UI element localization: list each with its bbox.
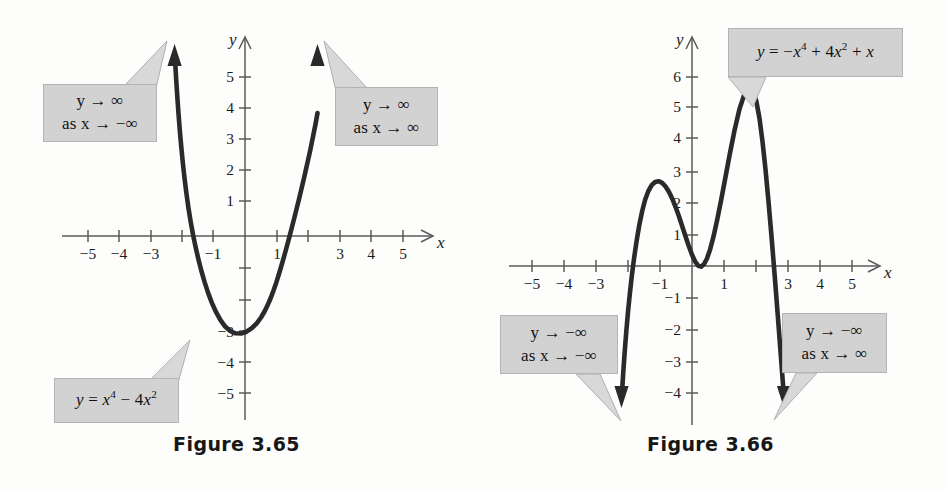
exponent-2: 2 — [842, 40, 848, 52]
callout-left-end-behavior-3-65: y → ∞ as x → −∞ — [43, 84, 157, 142]
y-tick-labels-3-66: 6 5 4 3 2 1 −1 −2 −3 −4 — [665, 68, 682, 401]
left-branch-arrowhead — [168, 44, 182, 66]
svg-text:3: 3 — [336, 245, 344, 262]
figure-caption-3-66: Figure 3.66 — [474, 433, 947, 455]
svg-text:4: 4 — [816, 275, 824, 292]
left-branch-arrowhead — [614, 386, 628, 408]
svg-text:−4: −4 — [218, 354, 235, 371]
x-axis-label-3-65: x — [436, 233, 445, 252]
callout-right-end-behavior-3-65: y → ∞ as x → ∞ — [335, 87, 438, 146]
callout-line-2: as x → ∞ — [353, 117, 419, 140]
figure-page: x y −5 −4 −3 −1 1 3 4 5 5 4 3 2 1 −3 − — [0, 0, 947, 492]
svg-text:5: 5 — [673, 98, 681, 115]
figure-caption-3-65: Figure 3.65 — [0, 433, 473, 455]
figure-3-65: x y −5 −4 −3 −1 1 3 4 5 5 4 3 2 1 −3 − — [0, 0, 473, 492]
svg-text:1: 1 — [673, 226, 681, 243]
equation-text: y = −x4 + 4x2 + x — [757, 41, 874, 64]
svg-text:−1: −1 — [665, 289, 682, 306]
callout-line-2: as x → ∞ — [801, 343, 867, 366]
y-axis-label-3-65: y — [227, 30, 237, 49]
svg-text:5: 5 — [399, 245, 407, 262]
callout-line-1: y → ∞ — [76, 90, 123, 113]
right-branch-arrowhead — [310, 44, 324, 66]
svg-text:1: 1 — [720, 275, 728, 292]
svg-text:4: 4 — [673, 129, 681, 146]
svg-text:−1: −1 — [205, 245, 222, 262]
exponent-4: 4 — [110, 388, 116, 400]
callout-equation-3-66: y = −x4 + 4x2 + x — [728, 28, 903, 77]
svg-text:1: 1 — [226, 192, 234, 209]
svg-text:−4: −4 — [556, 275, 573, 292]
svg-text:−5: −5 — [524, 275, 541, 292]
y-axis-3-66 — [686, 37, 698, 425]
svg-text:6: 6 — [673, 68, 681, 85]
callout-left-end-behavior-3-66: y → −∞ as x → −∞ — [500, 315, 618, 374]
svg-text:5: 5 — [226, 68, 234, 85]
curve-x4-minus-4x2 — [168, 44, 325, 334]
svg-text:−5: −5 — [80, 245, 97, 262]
x-tick-labels-3-66: −5 −4 −3 −1 1 3 4 5 — [524, 275, 856, 292]
svg-text:−3: −3 — [588, 275, 605, 292]
svg-text:−5: −5 — [218, 385, 235, 402]
svg-text:4: 4 — [226, 99, 234, 116]
svg-text:3: 3 — [784, 275, 792, 292]
svg-text:−4: −4 — [665, 384, 682, 401]
curve-neg-x4-plus-4x2-plus-x — [614, 88, 791, 408]
callout-line-1: y → −∞ — [531, 322, 588, 345]
exponent-2: 2 — [151, 388, 157, 400]
callout-line-1: y → ∞ — [363, 94, 410, 117]
y-axis-label-3-66: y — [674, 30, 684, 49]
x-axis-label-3-66: x — [883, 263, 892, 282]
x-tick-labels-3-65: −5 −4 −3 −1 1 3 4 5 — [80, 245, 407, 262]
callout-line-1: y → −∞ — [806, 320, 863, 343]
svg-text:5: 5 — [848, 275, 856, 292]
svg-text:−4: −4 — [111, 245, 128, 262]
svg-text:−2: −2 — [665, 321, 682, 338]
y-axis-3-65 — [239, 37, 251, 420]
figure-3-66: x y −5 −4 −3 −1 1 3 4 5 6 5 4 3 2 1 −1 −… — [474, 0, 947, 492]
y-tick-labels-3-65: 5 4 3 2 1 −3 −4 −5 — [218, 68, 235, 402]
svg-text:3: 3 — [673, 163, 681, 180]
callout-line-2: as x → −∞ — [62, 113, 138, 136]
x-axis-3-65 — [62, 230, 433, 242]
svg-text:−3: −3 — [143, 245, 160, 262]
equation-text: y = x4 − 4x2 — [76, 389, 157, 412]
svg-text:1: 1 — [273, 245, 281, 262]
callout-right-end-behavior-3-66: y → −∞ as x → ∞ — [782, 313, 887, 373]
exponent-4: 4 — [801, 40, 807, 52]
svg-text:3: 3 — [226, 130, 234, 147]
svg-text:2: 2 — [226, 161, 234, 178]
callout-equation-3-65: y = x4 − 4x2 — [54, 378, 179, 423]
callout-line-2: as x → −∞ — [521, 345, 597, 368]
svg-text:4: 4 — [367, 245, 375, 262]
svg-text:−3: −3 — [665, 353, 682, 370]
